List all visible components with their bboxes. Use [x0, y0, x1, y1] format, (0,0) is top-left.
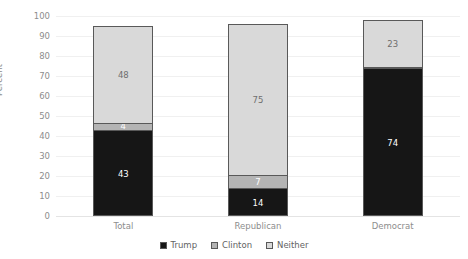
legend-label: Neither: [277, 240, 308, 250]
bar-segment-clinton[interactable]: 4: [94, 123, 152, 131]
legend-label: Clinton: [222, 240, 252, 250]
bar-group: 23174: [363, 16, 423, 216]
legend-item-clinton[interactable]: Clinton: [211, 240, 252, 250]
y-axis-title: Percent: [0, 64, 4, 96]
bar-group: 48443: [93, 16, 153, 216]
y-tick-label: 90: [0, 31, 50, 41]
legend-swatch-icon: [211, 242, 218, 249]
bar-group: 75714: [228, 16, 288, 216]
bar-segment-neither[interactable]: 23: [364, 21, 422, 67]
y-tick-label: 10: [0, 191, 50, 201]
bar-segment-trump[interactable]: 14: [229, 189, 287, 216]
legend-swatch-icon: [266, 242, 273, 249]
y-tick-label: 0: [0, 211, 50, 221]
x-axis-label: Republican: [198, 221, 318, 231]
y-tick-label: 50: [0, 111, 50, 121]
x-axis-label: Total: [63, 221, 183, 231]
bar-segment-neither[interactable]: 75: [229, 25, 287, 175]
segment-value-label: 43: [118, 170, 129, 179]
x-axis-label: Democrat: [333, 221, 453, 231]
y-tick-label: 40: [0, 131, 50, 141]
segment-value-label: 23: [387, 40, 398, 49]
bar-segment-trump[interactable]: 74: [364, 69, 422, 216]
stacked-bar[interactable]: 48443: [93, 26, 153, 216]
y-axis-ticks: 1009080706050403020100: [0, 16, 50, 216]
segment-value-label: 74: [387, 139, 398, 148]
y-tick-label: 70: [0, 71, 50, 81]
legend-item-neither[interactable]: Neither: [266, 240, 308, 250]
bar-segment-neither[interactable]: 48: [94, 27, 152, 123]
bar-segment-clinton[interactable]: 7: [229, 175, 287, 189]
stacked-bar[interactable]: 23174: [363, 20, 423, 216]
y-tick-label: 80: [0, 51, 50, 61]
segment-value-label: 4: [121, 123, 126, 131]
legend-label: Trump: [171, 240, 198, 250]
chart-legend: TrumpClintonNeither: [0, 240, 468, 250]
y-tick-label: 60: [0, 91, 50, 101]
y-tick-label: 30: [0, 151, 50, 161]
segment-value-label: 48: [118, 71, 129, 80]
gridline: [56, 216, 460, 217]
stacked-bar-chart: 1009080706050403020100 Percent 484437571…: [0, 0, 468, 259]
bar-segment-trump[interactable]: 43: [94, 131, 152, 216]
segment-value-label: 14: [253, 199, 264, 208]
plot-area: 484437571423174: [56, 16, 460, 216]
y-tick-label: 20: [0, 171, 50, 181]
legend-swatch-icon: [160, 242, 167, 249]
legend-item-trump[interactable]: Trump: [160, 240, 198, 250]
segment-value-label: 7: [255, 178, 260, 187]
stacked-bar[interactable]: 75714: [228, 24, 288, 216]
segment-value-label: 75: [253, 96, 264, 105]
x-axis-labels: TotalRepublicanDemocrat: [56, 221, 460, 237]
y-tick-label: 100: [0, 11, 50, 21]
